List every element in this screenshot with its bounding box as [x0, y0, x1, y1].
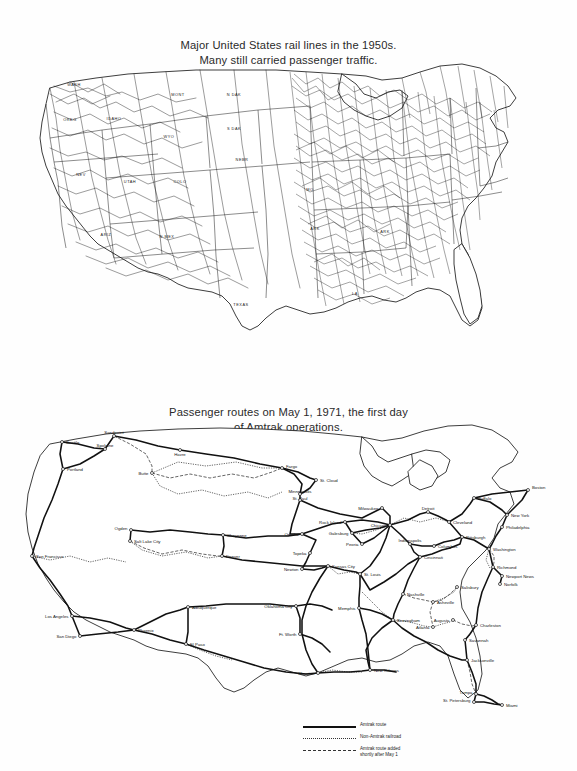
map-2-svg: SeattleSandpointSpokanePortlandHavreButt… — [10, 422, 567, 714]
city-marker-dot — [151, 472, 154, 475]
city-marker-dot — [315, 479, 318, 482]
city-label: Havre — [174, 452, 186, 457]
state-label: ARK — [310, 226, 320, 231]
city-label: St. Paul — [292, 496, 307, 501]
city-marker-dot — [499, 583, 502, 586]
city-marker-dot — [187, 606, 190, 609]
state-label: N MEX — [160, 234, 175, 239]
city-marker-dot — [506, 514, 509, 517]
city-label: Augusta — [434, 618, 450, 623]
map-1-svg: WASHOREGIDAHOMONTN DAKS DAKWYONEBRNEVUTA… — [10, 58, 567, 378]
city-label: St. Cloud — [320, 478, 338, 483]
city-label: Chicago — [371, 523, 387, 528]
city-label: Denver — [226, 554, 240, 559]
city-label: Philadelphia — [506, 525, 530, 530]
legend-item-amtrak-route: Amtrak route — [303, 722, 483, 731]
city-marker-dot — [433, 545, 436, 548]
city-label: Butte — [138, 471, 149, 476]
city-label: Houston — [298, 671, 315, 676]
map-2-title-line-1: Passenger routes on May 1, 1971, the fir… — [0, 405, 577, 420]
city-marker-dot — [317, 672, 320, 675]
legend-item-non-amtrak-railroad: Non-Amtrak railroad — [303, 734, 483, 743]
city-marker-dot — [359, 573, 362, 576]
state-label: ARK — [380, 229, 390, 234]
city-label: Sandpoint — [104, 430, 124, 435]
city-marker-dot — [432, 601, 435, 604]
legend-swatch-solid-line-icon — [303, 723, 356, 731]
city-label: Galesburg — [329, 531, 349, 536]
city-marker-dot — [501, 526, 504, 529]
city-marker-dot — [466, 659, 469, 662]
city-marker-dot — [129, 540, 132, 543]
city-label: Salisbury — [461, 585, 480, 590]
map-1-title-line-1: Major United States rail lines in the 19… — [0, 38, 577, 53]
city-marker-dot — [344, 521, 347, 524]
city-label: Tampa — [460, 690, 474, 695]
city-marker-dot — [31, 555, 34, 558]
city-label: Boston — [532, 485, 546, 490]
city-label: El Paso — [190, 642, 205, 647]
city-marker-dot — [104, 448, 107, 451]
city-label: Indianapolis — [399, 538, 422, 543]
city-label: Birmingham — [397, 618, 420, 623]
city-marker-dot — [185, 643, 188, 646]
city-label: New Orleans — [374, 668, 399, 673]
city-label: Jacksonville — [471, 658, 495, 663]
city-label: Charleston — [480, 623, 501, 628]
city-label: St. Petersburg — [443, 698, 471, 703]
legend-label-route-added: Amtrak route added shortly after May 1 — [356, 746, 400, 758]
city-marker-dot — [402, 593, 405, 596]
city-marker-dot — [456, 586, 459, 589]
state-label: MONT — [171, 92, 185, 97]
state-label: NEV — [76, 172, 86, 177]
city-label: Omaha — [284, 532, 299, 537]
city-label: Cheyenne — [227, 533, 247, 538]
city-label: Rock Island — [319, 520, 342, 525]
city-marker-dot — [527, 489, 530, 492]
state-label: S DAK — [227, 126, 241, 131]
city-marker-dot — [351, 532, 354, 535]
state-label: COLO — [173, 179, 186, 184]
map-amtrak-1971-routes: SeattleSandpointSpokanePortlandHavreButt… — [10, 422, 567, 714]
city-marker-dot — [381, 507, 384, 510]
city-marker-dot — [448, 521, 451, 524]
city-marker-dot — [222, 534, 225, 537]
map-legend: Amtrak route Non-Amtrak railroad Amtrak … — [303, 722, 483, 762]
city-label: Phoenix — [138, 628, 154, 633]
city-label: Topeka — [293, 551, 307, 556]
city-label: Fargo — [286, 464, 298, 469]
state-label: WYO — [164, 134, 175, 139]
city-marker-dot — [361, 543, 364, 546]
city-label: Newport News — [506, 574, 534, 579]
city-label: Norfolk — [504, 582, 518, 587]
city-marker-dot — [327, 565, 330, 568]
city-marker-dot — [501, 704, 504, 707]
city-label: Cleveland — [453, 520, 473, 525]
city-marker-dot — [501, 575, 504, 578]
city-marker-dot — [392, 619, 395, 622]
city-label: Oklahoma City — [264, 604, 293, 609]
map-1950s-rail-network: WASHOREGIDAHOMONTN DAKS DAKWYONEBRNEVUTA… — [10, 58, 567, 378]
city-label: Memphis — [338, 606, 355, 611]
city-marker-dot — [488, 548, 491, 551]
state-label: LA — [352, 291, 358, 296]
city-marker-dot — [62, 468, 65, 471]
city-marker-dot — [113, 435, 116, 438]
legend-label-non-amtrak-railroad-line-1: Non-Amtrak railroad — [360, 734, 401, 740]
city-marker-dot — [71, 615, 74, 618]
city-marker-dot — [432, 626, 435, 629]
city-marker-dot — [473, 497, 476, 500]
city-label: St. Louis — [364, 572, 381, 577]
legend-swatch-dashed-line-icon — [303, 747, 356, 755]
city-label: Portland — [67, 467, 84, 472]
city-label: Nashville — [407, 592, 425, 597]
city-label: Albuquerque — [192, 605, 217, 610]
city-label: Kansas City — [332, 564, 356, 569]
city-marker-dot — [389, 524, 392, 527]
legend-item-route-added: Amtrak route added shortly after May 1 — [303, 746, 483, 758]
legend-label-amtrak-route-line-1: Amtrak route — [360, 722, 386, 728]
city-label: New York — [511, 513, 530, 518]
legend-swatch-dotted-line-icon — [303, 735, 356, 743]
city-marker-dot — [475, 624, 478, 627]
city-label: Ogden — [115, 526, 129, 531]
